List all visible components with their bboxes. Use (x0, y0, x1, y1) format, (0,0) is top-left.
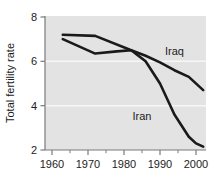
y-tick-label-8: 8 (31, 11, 37, 23)
x-tick-label-1990: 1990 (148, 158, 172, 170)
y-axis-title: Total fertility rate (4, 43, 16, 123)
fertility-rate-line-chart: 8 6 4 2 Total fertility rate 1960 1970 1… (0, 0, 218, 187)
x-tick-label-1980: 1980 (112, 158, 136, 170)
x-tick-label-2000: 2000 (184, 158, 208, 170)
series-label-iran: Iran (133, 110, 152, 122)
series-label-iraq: Iraq (165, 45, 184, 57)
y-tick-label-6: 6 (31, 55, 37, 67)
chart-container: 8 6 4 2 Total fertility rate 1960 1970 1… (0, 0, 218, 187)
y-tick-label-2: 2 (31, 144, 37, 156)
x-tick-label-1960: 1960 (40, 158, 64, 170)
y-tick-label-4: 4 (31, 100, 37, 112)
x-tick-label-1970: 1970 (76, 158, 100, 170)
